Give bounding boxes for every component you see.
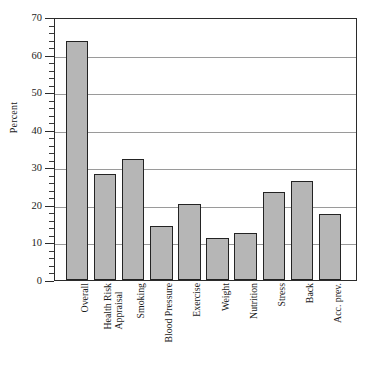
bar [263, 192, 285, 280]
y-axis-tick-labels: 010203040506070 [20, 0, 42, 366]
x-axis-tick-label: Acc. prev. [333, 283, 344, 323]
y-axis-major-tick [45, 243, 54, 244]
x-axis-tick-label: Smoking [136, 283, 147, 318]
x-axis-tick-label: Blood Pressure [164, 283, 175, 343]
bar [66, 41, 88, 280]
y-axis-major-tick [45, 168, 54, 169]
bar [234, 233, 256, 280]
x-axis-tick-label: Back [305, 283, 316, 303]
x-axis-tick-label: Overall [80, 283, 91, 312]
y-axis-major-tick [45, 18, 54, 19]
bar [206, 238, 228, 280]
y-axis-major-tick [45, 281, 54, 282]
y-axis-tick-label: 50 [20, 88, 42, 98]
y-axis-major-tick [45, 131, 54, 132]
y-axis-tick-marks [45, 0, 54, 366]
bar [122, 159, 144, 280]
y-axis-major-tick [45, 93, 54, 94]
y-axis-tick-label: 40 [20, 126, 42, 136]
bar-series [55, 19, 356, 280]
x-axis-tick-label: Stress [277, 283, 288, 306]
y-axis-tick-label: 20 [20, 201, 42, 211]
bar [150, 226, 172, 280]
x-axis-tick-label: Health Risk Appraisal [103, 283, 124, 330]
y-axis-title: Percent [8, 68, 19, 168]
bar [291, 181, 313, 280]
x-axis-tick-label: Nutrition [249, 283, 260, 319]
bar [94, 174, 116, 280]
y-axis-major-tick [45, 206, 54, 207]
y-axis-major-tick [45, 56, 54, 57]
bar [319, 214, 341, 280]
x-axis-tick-label: Weight [221, 283, 232, 311]
y-axis-tick-label: 10 [20, 238, 42, 248]
y-axis-tick-label: 70 [20, 13, 42, 23]
bar [178, 204, 200, 280]
x-axis-tick-labels: OverallHealth Risk AppraisalSmokingBlood… [54, 283, 357, 366]
plot-area [54, 18, 357, 281]
bar-chart: Percent 010203040506070 OverallHealth Ri… [0, 0, 369, 366]
y-axis-tick-label: 0 [20, 276, 42, 286]
y-axis-tick-label: 30 [20, 163, 42, 173]
y-axis-tick-label: 60 [20, 51, 42, 61]
x-axis-tick-label: Exercise [192, 283, 203, 317]
